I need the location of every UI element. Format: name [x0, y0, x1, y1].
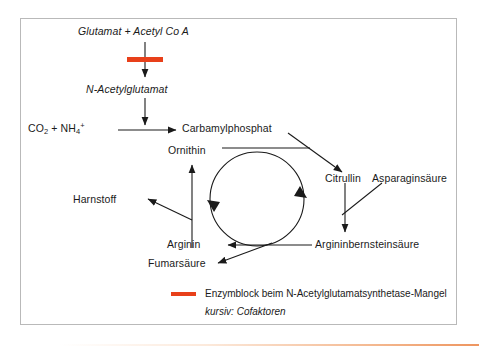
legend-cofactor-note: kursiv: Cofaktoren [205, 306, 441, 317]
nh4-superscript: + [80, 121, 84, 130]
co2-label: CO [28, 122, 44, 134]
node-citrullin: Citrullin [325, 173, 361, 185]
node-fumarsaeure: Fumarsäure [148, 258, 206, 270]
node-n-acetylglutamat: N-Acetylglutamat [86, 84, 168, 96]
node-ornithin: Ornithin [168, 145, 206, 157]
node-harnstoff: Harnstoff [73, 194, 116, 206]
node-glutamat-acetyl-coa: Glutamat + Acetyl Co A [78, 26, 189, 38]
enzyme-block-marker [127, 57, 163, 62]
legend-enzyme-block-swatch [171, 292, 196, 296]
co2-subscript: 2 [44, 127, 48, 136]
diagram-page: Glutamat + Acetyl Co A N-Acetylglutamat … [0, 0, 479, 349]
legend-enzyme-block-row: Enzymblock beim N-Acetylglutamatsyntheta… [171, 288, 441, 299]
bottom-accent-rule [60, 344, 479, 346]
plus-nh4-label: + NH [48, 122, 76, 134]
node-asparaginsaeure: Asparaginsäure [372, 173, 447, 185]
node-argininbernsteinsaeure: Argininbernsteinsäure [315, 239, 419, 251]
node-co2-nh4: CO2 + NH4+ [28, 123, 85, 135]
legend-enzyme-block-label: Enzymblock beim N-Acetylglutamatsyntheta… [205, 288, 447, 299]
legend: Enzymblock beim N-Acetylglutamatsyntheta… [171, 288, 441, 317]
node-carbamylphosphat: Carbamylphosphat [182, 123, 272, 135]
node-arginin: Arginin [167, 239, 200, 251]
